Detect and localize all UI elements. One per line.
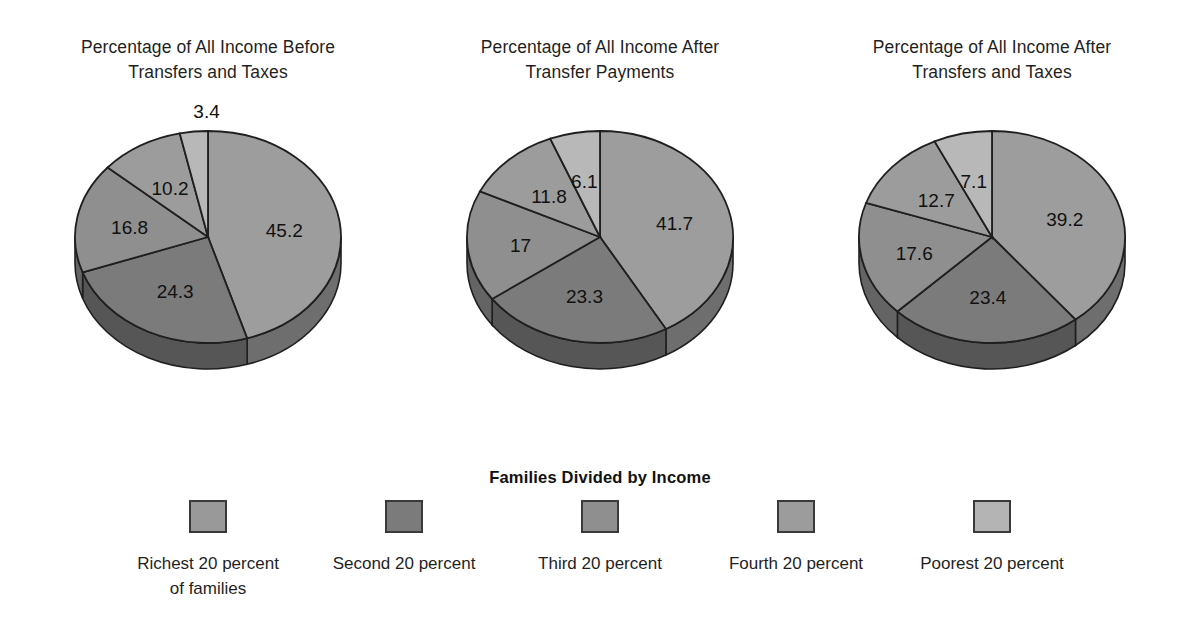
pie-chart-before-transfers-taxes[interactable]: 45.224.316.810.23.4 [43, 89, 373, 389]
legend-swatch-second [385, 500, 423, 533]
legend-label: Fourth 20 percent [729, 551, 863, 576]
pie-slice-value-label: 10.2 [152, 178, 189, 199]
chart-title: Percentage of All Income After Transfer … [481, 35, 719, 85]
legend-swatch-fourth [777, 500, 815, 533]
pie-slice-value-label: 6.1 [571, 171, 597, 192]
charts-row: Percentage of All Income Before Transfer… [0, 0, 1200, 389]
chart-title: Percentage of All Income Before Transfer… [81, 35, 335, 85]
pie-slice-value-label: 45.2 [266, 220, 303, 241]
pie-slice-value-label: 23.3 [566, 286, 603, 307]
pie-slice-value-label: 7.1 [961, 171, 987, 192]
legend-item-third[interactable]: Third 20 percent [502, 500, 698, 576]
pie-svg: 39.223.417.612.77.1 [827, 89, 1157, 389]
pie-top-face [467, 131, 733, 343]
pie-slice-value-label: 17.6 [896, 243, 933, 264]
legend-label: Poorest 20 percent [920, 551, 1064, 576]
pie-slice-value-label: 24.3 [157, 281, 194, 302]
legend-heading: Families Divided by Income [0, 468, 1200, 487]
pie-slice-value-label: 12.7 [918, 190, 955, 211]
legend-label: Third 20 percent [538, 551, 662, 576]
pie-slice-value-label: 17 [510, 235, 531, 256]
pie-slice-value-label: 41.7 [656, 213, 693, 234]
legend-item-richest[interactable]: Richest 20 percent of families [110, 500, 306, 601]
pie-chart-after-transfer-payments[interactable]: 41.723.31711.86.1 [435, 89, 765, 389]
legend-label: Second 20 percent [333, 551, 476, 576]
pie-slice-value-label: 23.4 [969, 287, 1006, 308]
pie-top-face [859, 131, 1125, 343]
legend-swatch-third [581, 500, 619, 533]
legend-swatch-poorest [973, 500, 1011, 533]
chart-title: Percentage of All Income After Transfers… [873, 35, 1111, 85]
pie-slice-value-label: 11.8 [531, 186, 567, 207]
pie-chart-after-transfers-taxes[interactable]: 39.223.417.612.77.1 [827, 89, 1157, 389]
legend-item-fourth[interactable]: Fourth 20 percent [698, 500, 894, 576]
chart-cell-before-transfers-taxes: Percentage of All Income Before Transfer… [22, 0, 394, 389]
pie-svg: 45.224.316.810.23.4 [43, 89, 373, 389]
pie-svg: 41.723.31711.86.1 [435, 89, 765, 389]
legend-item-second[interactable]: Second 20 percent [306, 500, 502, 576]
legend-label: Richest 20 percent of families [137, 551, 279, 601]
legend: Richest 20 percent of families Second 20… [0, 500, 1200, 601]
legend-swatch-richest [189, 500, 227, 533]
pie-slice-value-label: 3.4 [193, 101, 220, 122]
legend-item-poorest[interactable]: Poorest 20 percent [894, 500, 1090, 576]
pie-slice-value-label: 16.8 [111, 217, 148, 238]
pie-slice-value-label: 39.2 [1046, 209, 1083, 230]
chart-cell-after-transfer-payments: Percentage of All Income After Transfer … [414, 0, 786, 389]
chart-cell-after-transfers-taxes: Percentage of All Income After Transfers… [806, 0, 1178, 389]
